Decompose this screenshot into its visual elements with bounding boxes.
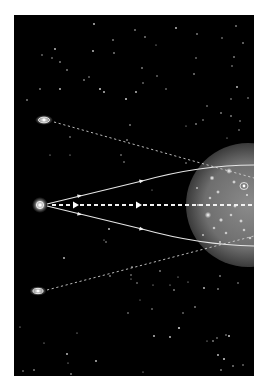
arrow-right-icon bbox=[73, 202, 79, 209]
arrow-right-icon bbox=[136, 202, 142, 209]
galaxy-image-bottom-icon bbox=[30, 286, 47, 296]
space-panel bbox=[14, 15, 254, 376]
figure-canvas: Gravitational lensing illustration bbox=[0, 0, 254, 390]
galaxy-image-top-icon bbox=[35, 115, 53, 125]
source-galaxy-icon bbox=[32, 197, 48, 213]
